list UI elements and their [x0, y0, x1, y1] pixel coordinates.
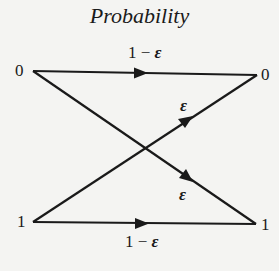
arrow-icon — [179, 169, 193, 182]
label-top-straight: 1 − ε — [128, 44, 162, 61]
channel-diagram — [0, 0, 279, 271]
label-bottom-to-top: ε — [180, 97, 187, 114]
node-input-0: 0 — [15, 62, 24, 79]
arrow-icon — [134, 68, 148, 79]
edge-bottom-to-top — [33, 75, 257, 222]
label-top-to-bottom: ε — [179, 186, 186, 203]
label-bottom-straight: 1 − ε — [125, 233, 159, 250]
node-output-1: 1 — [261, 216, 270, 233]
node-input-1: 1 — [17, 213, 26, 230]
arrow-icon — [135, 218, 149, 229]
node-output-0: 0 — [261, 66, 270, 83]
